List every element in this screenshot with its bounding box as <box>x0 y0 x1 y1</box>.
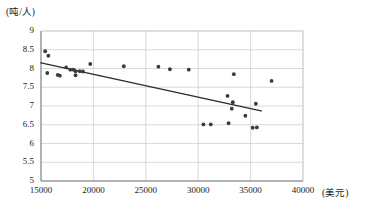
scatter-chart-figure: (吨/人) (美元) 55.566.577.588.59 15000200002… <box>0 0 365 215</box>
x-tick-label: 30000 <box>175 185 221 195</box>
y-tick-label: 5.5 <box>8 156 34 166</box>
y-tick-label: 9 <box>8 25 34 35</box>
y-tick-label: 5 <box>8 175 34 185</box>
plot-area <box>0 0 365 215</box>
y-tick-label: 6.5 <box>8 119 34 129</box>
x-tick-label: 40000 <box>280 185 326 195</box>
y-tick-label: 8.5 <box>8 44 34 54</box>
y-tick-label: 6 <box>8 138 34 148</box>
y-tick-label: 7 <box>8 100 34 110</box>
x-tick-label: 25000 <box>123 185 169 195</box>
y-tick-label: 7.5 <box>8 81 34 91</box>
y-tick-label: 8 <box>8 63 34 73</box>
x-tick-label: 35000 <box>228 185 274 195</box>
grid-lines <box>41 31 303 181</box>
data-points <box>43 49 273 129</box>
x-tick-label: 20000 <box>70 185 116 195</box>
x-tick-label: 15000 <box>18 185 64 195</box>
